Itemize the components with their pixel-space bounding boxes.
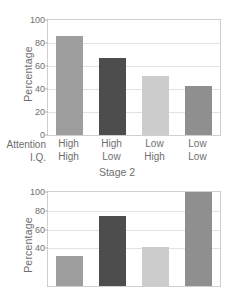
category-iq-value: High — [47, 150, 90, 163]
y-tick-mark — [45, 248, 48, 249]
y-tick-label: 60 — [35, 61, 45, 71]
y-tick-mark — [45, 192, 48, 193]
bar — [142, 247, 169, 286]
category-iq-value: Low — [176, 150, 219, 163]
y-tick-mark — [45, 112, 48, 113]
category-attention-value: High — [47, 137, 90, 150]
bar — [99, 58, 126, 135]
plot-area-top: 020406080100 — [47, 19, 221, 136]
y-tick-mark — [45, 135, 48, 136]
y-tick-label: 40 — [35, 243, 45, 253]
y-tick-label: 60 — [35, 225, 45, 235]
bar — [56, 36, 83, 135]
bar — [142, 76, 169, 135]
category-attention-value: High — [90, 137, 133, 150]
category-label-group: LowLow — [176, 137, 219, 163]
x-axis-label-top: Stage 2 — [0, 166, 234, 178]
y-tick-label: 100 — [30, 187, 45, 197]
category-attention-value: Low — [176, 137, 219, 150]
y-tick-mark — [45, 43, 48, 44]
category-iq-value: High — [133, 150, 176, 163]
y-tick-mark — [45, 229, 48, 230]
y-tick-label: 80 — [35, 38, 45, 48]
bar — [185, 192, 212, 286]
bar — [56, 256, 83, 286]
y-axis-label-bottom: Percentage — [0, 205, 22, 285]
category-attention-value: Low — [133, 137, 176, 150]
y-axis-label-top: Percentage — [0, 28, 22, 120]
row-label-iq: I.Q. — [0, 152, 46, 163]
chart-stage2-top: Percentage 020406080100 Attention I.Q. H… — [0, 0, 234, 150]
y-tick-mark — [45, 66, 48, 67]
y-tick-mark — [45, 20, 48, 21]
y-tick-label: 80 — [35, 206, 45, 216]
y-tick-label: 20 — [35, 107, 45, 117]
y-tick-label: 40 — [35, 84, 45, 94]
row-label-attention: Attention — [0, 139, 46, 150]
chart-stage-bottom: Percentage 406080100 — [0, 185, 234, 281]
y-tick-label: 100 — [30, 15, 45, 25]
bar — [99, 216, 126, 286]
bar — [185, 86, 212, 135]
category-label-group: LowHigh — [133, 137, 176, 163]
y-tick-mark — [45, 89, 48, 90]
plot-area-bottom: 406080100 — [47, 191, 221, 287]
category-label-group: HighHigh — [47, 137, 90, 163]
category-iq-value: Low — [90, 150, 133, 163]
y-tick-mark — [45, 210, 48, 211]
category-label-group: HighLow — [90, 137, 133, 163]
